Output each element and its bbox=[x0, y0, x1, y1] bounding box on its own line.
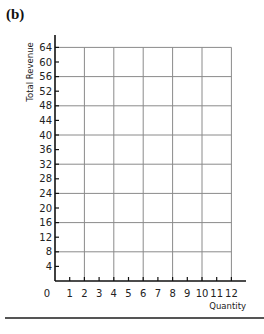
x-tick-label: 5 bbox=[125, 288, 131, 299]
y-tick-label: 24 bbox=[39, 188, 52, 199]
x-tick-label: 8 bbox=[169, 288, 175, 299]
y-tick-label: 44 bbox=[39, 115, 52, 126]
y-tick-label: 8 bbox=[46, 246, 52, 257]
x-axis-label: Quantity bbox=[209, 301, 246, 311]
x-tick-label: 3 bbox=[96, 288, 102, 299]
x-tick-label: 0 bbox=[44, 288, 50, 299]
y-tick-label: 36 bbox=[39, 144, 52, 155]
y-tick-label: 28 bbox=[39, 173, 52, 184]
y-tick-label: 52 bbox=[39, 86, 52, 97]
y-axis-label: Total Revenue bbox=[25, 42, 35, 103]
y-tick-label: 12 bbox=[39, 232, 52, 243]
y-tick-label: 4 bbox=[46, 261, 52, 272]
total-revenue-chart: 4812162024283236404448525660640123456789… bbox=[0, 0, 264, 334]
y-tick-label: 40 bbox=[39, 130, 52, 141]
x-tick-label: 6 bbox=[140, 288, 146, 299]
x-tick-label: 2 bbox=[81, 288, 87, 299]
x-tick-label: 11 bbox=[210, 288, 223, 299]
y-tick-label: 32 bbox=[39, 159, 52, 170]
x-tick-label: 10 bbox=[196, 288, 209, 299]
x-tick-label: 1 bbox=[67, 288, 73, 299]
y-tick-label: 64 bbox=[39, 42, 52, 53]
x-tick-label: 4 bbox=[111, 288, 117, 299]
y-tick-label: 48 bbox=[39, 100, 52, 111]
y-tick-label: 16 bbox=[39, 217, 52, 228]
x-tick-label: 12 bbox=[225, 288, 238, 299]
x-tick-label: 9 bbox=[184, 288, 190, 299]
y-tick-label: 60 bbox=[39, 57, 52, 68]
divider-rule bbox=[5, 317, 264, 319]
y-tick-label: 56 bbox=[39, 71, 52, 82]
x-tick-label: 7 bbox=[155, 288, 161, 299]
y-tick-label: 20 bbox=[39, 203, 52, 214]
